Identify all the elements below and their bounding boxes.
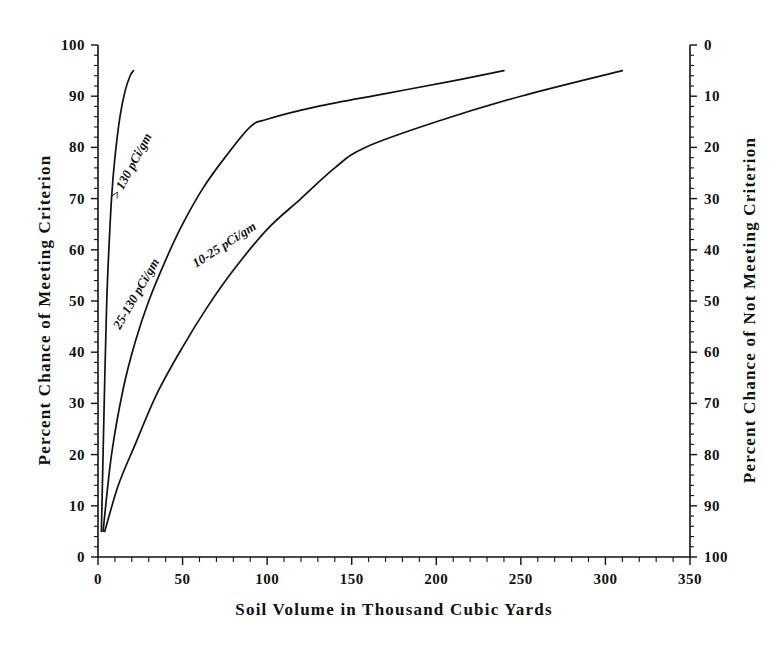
- y-tick-label-left: 90: [69, 88, 85, 104]
- y-tick-label-left: 20: [69, 447, 85, 463]
- y-tick-label-left: 60: [69, 242, 85, 258]
- y-tick-label-left: 10: [69, 498, 85, 514]
- series-curve: [103, 71, 504, 532]
- y-tick-label-left: 40: [69, 344, 85, 360]
- x-tick-label: 0: [94, 571, 102, 587]
- y-tick-label-left: 0: [77, 549, 85, 565]
- y-tick-label-right: 20: [704, 139, 720, 155]
- x-tick-label: 150: [340, 571, 364, 587]
- y-tick-label-left: 70: [69, 191, 85, 207]
- y-tick-label-right: 90: [704, 498, 720, 514]
- x-axis-title: Soil Volume in Thousand Cubic Yards: [98, 600, 690, 620]
- y-tick-label-right: 30: [704, 191, 720, 207]
- y-axis-title-left: Percent Chance of Meeting Criterion: [35, 50, 55, 570]
- x-tick-group: 050100150200250300350: [94, 557, 702, 587]
- y-tick-label-left: 80: [69, 139, 85, 155]
- y-axis-title-right: Percent Chance of Not Meeting Criterion: [740, 50, 760, 570]
- x-tick-label: 100: [255, 571, 279, 587]
- y-tick-group-right: 0102030405060708090100: [690, 37, 728, 565]
- curve-label-3: 10-25 pCi/gm: [189, 218, 258, 270]
- y-tick-label-right: 40: [704, 242, 720, 258]
- axes-group: [98, 45, 690, 557]
- y-tick-label-right: 10: [704, 88, 720, 104]
- x-tick-label: 300: [593, 571, 617, 587]
- y-tick-label-right: 80: [704, 447, 720, 463]
- x-tick-label: 200: [424, 571, 448, 587]
- series-group: [101, 71, 622, 532]
- y-tick-group-left: 0102030405060708090100: [61, 37, 98, 565]
- x-tick-label: 350: [678, 571, 702, 587]
- y-tick-label-right: 70: [704, 395, 720, 411]
- y-tick-label-right: 0: [704, 37, 712, 53]
- y-tick-label-left: 100: [61, 37, 85, 53]
- y-tick-label-right: 50: [704, 293, 720, 309]
- x-tick-label: 50: [175, 571, 191, 587]
- series-curve: [105, 71, 623, 532]
- y-tick-label-left: 50: [69, 293, 85, 309]
- x-tick-label: 250: [509, 571, 533, 587]
- curve-label-group: > 130 pCi/gm25-130 pCi/gm10-25 pCi/gm: [107, 130, 258, 332]
- y-tick-label-left: 30: [69, 395, 85, 411]
- curve-label-2: 25-130 pCi/gm: [109, 256, 162, 333]
- plot-canvas: 050100150200250300350 010203040506070809…: [0, 0, 784, 648]
- y-tick-label-right: 60: [704, 344, 720, 360]
- chart-figure: Percent Chance of Meeting Criterion Perc…: [0, 0, 784, 648]
- y-tick-label-right: 100: [704, 549, 728, 565]
